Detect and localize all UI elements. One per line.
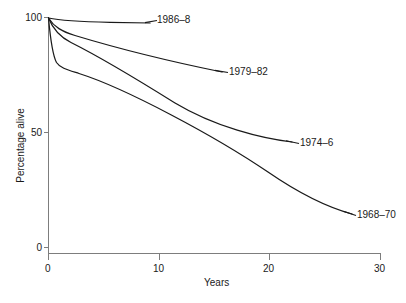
x-tick-marks [49, 254, 381, 261]
y-tick-label-0: 0 [16, 242, 42, 253]
curve-1986-8 [49, 18, 151, 23]
x-tick-label-30: 30 [374, 263, 385, 274]
survival-curve-chart: 100 50 0 0 10 20 30 Percentage alive Yea… [0, 0, 406, 303]
leader-1968-70 [344, 212, 356, 216]
x-tick-label-20: 20 [263, 263, 274, 274]
series-label-1979-82: 1979–82 [229, 66, 268, 77]
curve-1974-6 [49, 18, 293, 142]
x-tick-label-0: 0 [45, 263, 51, 274]
x-tick-label-10: 10 [153, 263, 164, 274]
leader-1974-6 [286, 141, 299, 144]
chart-canvas [0, 0, 406, 303]
y-axis-title: Percentage alive [14, 96, 26, 196]
y-tick-label-100: 100 [16, 12, 42, 23]
series-label-1968-70: 1968–70 [357, 209, 396, 220]
y-tick-marks [44, 18, 49, 248]
series-curves [49, 18, 353, 214]
series-label-1986-8: 1986–8 [157, 14, 190, 25]
x-axis-title: Years [204, 277, 229, 288]
curve-1979-82 [49, 18, 223, 72]
leader-1986-8 [145, 21, 157, 23]
series-label-1974-6: 1974–6 [300, 137, 333, 148]
axes-group [49, 17, 381, 254]
y-axis-title-text: Percentage alive [15, 96, 26, 196]
